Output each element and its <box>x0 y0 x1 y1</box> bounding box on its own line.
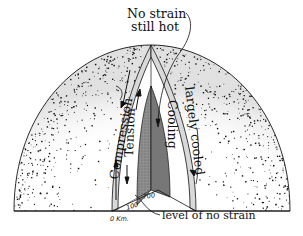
label-still-hot: still hot <box>131 19 179 34</box>
tick-700: 700 <box>142 191 155 201</box>
label-cooling: Cooling <box>165 100 180 149</box>
label-level-of-no-strain: level of no strain <box>162 209 256 222</box>
label-tension: Tension <box>121 108 138 157</box>
diagram-canvas: No strain still hot Compression Tension … <box>0 0 303 236</box>
tick-0km: 0 Km. <box>110 215 129 223</box>
